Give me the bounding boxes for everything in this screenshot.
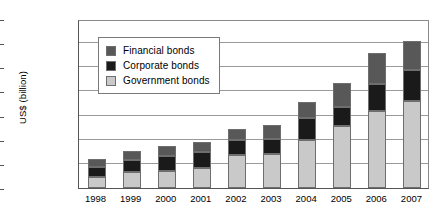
bar-segment[interactable] [88,177,106,188]
y-tick-mark [0,92,4,93]
y-axis-title: US$ (billion) [17,43,28,153]
bar-group[interactable] [193,142,211,188]
bar-segment[interactable] [333,126,351,188]
y-tick-mark [0,44,4,45]
bar-segment[interactable] [368,84,386,111]
bar-group[interactable] [123,151,141,188]
bar-segment[interactable] [123,160,141,172]
x-tick-label: 2000 [155,193,176,204]
bar-group[interactable] [228,129,246,188]
bar-segment[interactable] [193,168,211,188]
y-tick-mark [0,141,4,142]
bar-group[interactable] [333,83,351,188]
bar-segment[interactable] [298,140,316,188]
x-tick-label: 2005 [331,193,352,204]
bar-segment[interactable] [228,155,246,188]
x-tick-label: 2003 [260,193,281,204]
bar-group[interactable] [368,53,386,188]
legend-swatch-icon [106,61,116,71]
x-tick-label: 1998 [85,193,106,204]
legend: Financial bondsCorporate bondsGovernment… [98,37,220,94]
bar-segment[interactable] [158,146,176,156]
bar-group[interactable] [298,102,316,188]
x-tick-label: 2006 [366,193,387,204]
bar-segment[interactable] [228,140,246,155]
bar-segment[interactable] [333,107,351,126]
legend-item[interactable]: Government bonds [106,73,210,88]
bar-segment[interactable] [263,125,281,139]
bar-segment[interactable] [193,152,211,168]
bar-segment[interactable] [228,129,246,140]
bar-segment[interactable] [298,102,316,118]
bar-segment[interactable] [123,151,141,160]
x-tick-label: 1999 [120,193,141,204]
y-tick-mark [0,20,4,21]
legend-item[interactable]: Corporate bonds [106,58,210,73]
bar-segment[interactable] [158,171,176,188]
x-tick-label: 2001 [190,193,211,204]
x-tick-label: 2004 [296,193,317,204]
legend-item[interactable]: Financial bonds [106,43,210,58]
bar-segment[interactable] [263,139,281,154]
legend-label: Government bonds [123,75,210,86]
legend-label: Corporate bonds [123,60,199,71]
y-tick-mark [0,189,4,190]
bar-segment[interactable] [263,154,281,188]
x-tick-label: 2002 [225,193,246,204]
bar-segment[interactable] [403,101,421,188]
legend-swatch-icon [106,76,116,86]
bar-segment[interactable] [403,70,421,101]
x-tick-label: 2007 [401,193,422,204]
bar-segment[interactable] [123,172,141,188]
bar-group[interactable] [263,125,281,188]
bar-group[interactable] [403,41,421,188]
bar-segment[interactable] [298,118,316,140]
bar-segment[interactable] [333,83,351,107]
bar-group[interactable] [88,159,106,188]
bar-segment[interactable] [193,142,211,152]
bar-segment[interactable] [158,156,176,171]
bar-segment[interactable] [368,111,386,188]
legend-label: Financial bonds [123,45,195,56]
bar-segment[interactable] [403,41,421,70]
bond-market-stacked-bar-chart: US$ (billion) 05001,0001,5002,0002,5003,… [0,0,447,219]
bar-group[interactable] [158,146,176,188]
y-tick-mark [0,117,4,118]
y-tick-mark [0,165,4,166]
legend-swatch-icon [106,46,116,56]
bar-segment[interactable] [368,53,386,84]
bar-segment[interactable] [88,159,106,167]
bar-segment[interactable] [88,167,106,177]
y-tick-mark [0,68,4,69]
